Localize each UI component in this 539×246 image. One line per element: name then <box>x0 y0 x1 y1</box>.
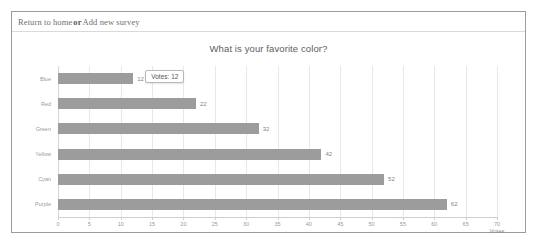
gridline <box>497 66 498 217</box>
add-new-survey-link[interactable]: Add new survey <box>83 17 140 27</box>
bar-value-label: 32 <box>259 126 270 132</box>
y-axis-label: Green <box>36 126 51 132</box>
x-axis-tick-label: 50 <box>369 221 375 227</box>
x-axis-tick <box>497 217 498 220</box>
x-axis-title: Votes <box>489 228 504 234</box>
x-axis-tick <box>246 217 247 220</box>
bar-value-label: 52 <box>384 176 395 182</box>
x-axis-tick-label: 35 <box>274 221 280 227</box>
tooltip-series-label: Votes: <box>151 73 169 80</box>
x-axis-tick <box>434 217 435 220</box>
bar[interactable] <box>58 149 321 160</box>
navbar-separator: or <box>72 17 82 27</box>
x-axis-tick <box>278 217 279 220</box>
bar[interactable] <box>58 174 384 185</box>
survey-result-card: Return to homeorAdd new survey What is y… <box>11 11 526 233</box>
x-axis-tick-label: 55 <box>400 221 406 227</box>
x-axis-ticks: 0510152025303540455055606570Votes <box>58 217 497 231</box>
y-axis-label: Cyan <box>38 176 51 182</box>
x-axis-tick-label: 15 <box>149 221 155 227</box>
x-axis-tick-label: 60 <box>431 221 437 227</box>
bar-row: Cyan52 <box>58 174 497 185</box>
navbar-text: Return to homeorAdd new survey <box>18 17 140 27</box>
chart-container: What is your favorite color? Blue12Red22… <box>12 33 525 232</box>
bar-row: Red22 <box>58 98 497 109</box>
bar-row: Green32 <box>58 123 497 134</box>
x-axis-tick-label: 40 <box>306 221 312 227</box>
x-axis-tick <box>309 217 310 220</box>
x-axis-tick <box>340 217 341 220</box>
chart-title: What is your favorite color? <box>12 43 525 54</box>
x-axis-tick-label: 0 <box>56 221 59 227</box>
page-root: Return to homeorAdd new survey What is y… <box>0 0 539 246</box>
bar-row: Yellow42 <box>58 149 497 160</box>
y-axis-label: Yellow <box>35 151 51 157</box>
x-axis-tick <box>183 217 184 220</box>
x-axis-tick <box>403 217 404 220</box>
bar-tooltip: Votes: 12 <box>145 70 184 83</box>
x-axis-tick-label: 5 <box>88 221 91 227</box>
bar[interactable] <box>58 123 259 134</box>
bar-value-label: 62 <box>447 201 458 207</box>
return-to-home-link[interactable]: Return to home <box>18 17 72 27</box>
bar[interactable] <box>58 98 196 109</box>
plot-area: Blue12Red22Green32Yellow42Cyan52Purple62 <box>58 66 497 217</box>
y-axis-label: Purple <box>35 201 51 207</box>
tooltip-value: 12 <box>171 73 178 80</box>
x-axis-tick-label: 70 <box>494 221 500 227</box>
bar-row: Purple62 <box>58 199 497 210</box>
y-axis-label: Blue <box>40 76 51 82</box>
y-axis-label: Red <box>41 101 51 107</box>
x-axis-tick <box>152 217 153 220</box>
bar-row: Blue12 <box>58 73 497 84</box>
x-axis-tick <box>466 217 467 220</box>
x-axis-tick <box>372 217 373 220</box>
x-axis-tick <box>215 217 216 220</box>
x-axis-tick-label: 20 <box>180 221 186 227</box>
x-axis-tick-label: 65 <box>463 221 469 227</box>
x-axis-tick-label: 45 <box>337 221 343 227</box>
x-axis-tick <box>89 217 90 220</box>
x-axis-tick-label: 10 <box>118 221 124 227</box>
x-axis-tick <box>58 217 59 220</box>
navbar: Return to homeorAdd new survey <box>12 12 525 32</box>
x-axis-tick-label: 30 <box>243 221 249 227</box>
bar[interactable] <box>58 199 447 210</box>
x-axis-tick-label: 25 <box>212 221 218 227</box>
bar[interactable] <box>58 73 133 84</box>
bars-group: Blue12Red22Green32Yellow42Cyan52Purple62 <box>58 66 497 217</box>
bar-value-label: 42 <box>321 151 332 157</box>
x-axis-tick <box>121 217 122 220</box>
bar-value-label: 22 <box>196 101 207 107</box>
bar-value-label: 12 <box>133 76 144 82</box>
